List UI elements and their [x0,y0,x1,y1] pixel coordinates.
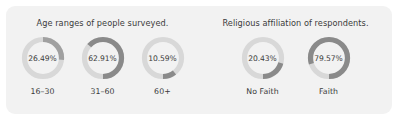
infographic-card: Age ranges of people surveyed. 26.49% 16… [6,6,392,114]
donut-label-no-faith: No Faith [246,87,279,96]
donut-cell-16-30[interactable]: 26.49% 16–30 [15,34,71,96]
donut-group-age-ranges: 26.49% 16–30 62.91% 31–60 [6,34,199,96]
donut-chart-faith[interactable]: 79.57% [305,34,353,82]
chart-panel-age-ranges: Age ranges of people surveyed. 26.49% 16… [6,6,199,114]
donut-label-16-30: 16–30 [30,87,54,96]
chart-title-religious-affiliation: Religious affiliation of respondents. [199,18,392,28]
donut-value-faith: 79.57% [305,34,353,82]
donut-chart-16-30[interactable]: 26.49% [19,34,67,82]
donut-chart-60-plus[interactable]: 10.59% [139,34,187,82]
donut-chart-no-faith[interactable]: 20.43% [239,34,287,82]
donut-group-religious-affiliation: 20.43% No Faith 79.57% Faith [199,34,392,96]
donut-value-31-60: 62.91% [79,34,127,82]
donut-chart-31-60[interactable]: 62.91% [79,34,127,82]
donut-cell-no-faith[interactable]: 20.43% No Faith [235,34,291,96]
donut-value-60-plus: 10.59% [139,34,187,82]
donut-label-31-60: 31–60 [90,87,114,96]
donut-cell-60-plus[interactable]: 10.59% 60+ [135,34,191,96]
donut-value-no-faith: 20.43% [239,34,287,82]
chart-title-age-ranges: Age ranges of people surveyed. [6,18,199,28]
donut-cell-faith[interactable]: 79.57% Faith [301,34,357,96]
chart-panel-religious-affiliation: Religious affiliation of respondents. 20… [199,6,392,114]
donut-cell-31-60[interactable]: 62.91% 31–60 [75,34,131,96]
donut-label-faith: Faith [319,87,338,96]
donut-label-60-plus: 60+ [154,87,171,96]
donut-value-16-30: 26.49% [19,34,67,82]
